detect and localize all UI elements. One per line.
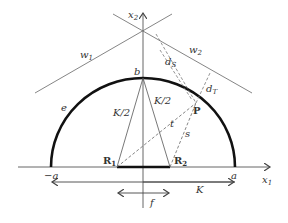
- t-label: t: [170, 118, 175, 129]
- p-label: P: [193, 105, 201, 116]
- x1-axis-label: x1: [262, 174, 272, 187]
- w2-label: w2: [189, 44, 203, 57]
- r1-label: R1: [103, 155, 116, 168]
- ds-label: dS: [165, 56, 176, 69]
- k-half-right-line: [143, 78, 170, 167]
- k-label: K: [195, 184, 204, 195]
- w2-line: [113, 14, 252, 93]
- w1-line: [35, 14, 172, 93]
- k-half-left-label: K/2: [112, 107, 130, 118]
- b-label: b: [134, 66, 140, 77]
- ellipse-geometry-diagram: x2 x1 w1 w2 dS dT b e K/2 K/2 P t s R1 R…: [0, 0, 288, 223]
- minus-a-label: −a: [44, 170, 58, 181]
- w1-label: w1: [80, 49, 93, 62]
- s-label: s: [185, 128, 190, 139]
- r2-label: R2: [174, 155, 187, 168]
- dt-label: dT: [206, 83, 218, 96]
- k-half-right-label: K/2: [153, 95, 171, 106]
- a-label: a: [231, 170, 237, 181]
- k-half-left-line: [117, 78, 143, 167]
- x2-axis-label: x2: [128, 9, 139, 22]
- e-label: e: [61, 102, 67, 113]
- f-label: f: [149, 197, 156, 208]
